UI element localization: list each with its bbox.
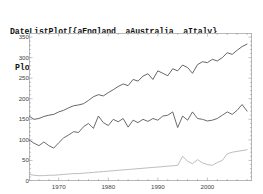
y-tick-label-100: 100 xyxy=(0,137,29,143)
x-tick-label-1970: 1970 xyxy=(44,184,74,190)
y-tick-label-250: 250 xyxy=(0,75,29,81)
series-line-aEngland xyxy=(29,44,247,119)
y-tick-label-50: 50 xyxy=(0,157,29,163)
notebook-output-cell: DateListPlot[{aEngland, aAustralia, aIta… xyxy=(0,0,263,194)
y-tick-label-0: 0 xyxy=(0,178,29,184)
y-tick-label-150: 150 xyxy=(0,116,29,122)
x-tick-label-1990: 1990 xyxy=(143,184,173,190)
y-tick-label-300: 300 xyxy=(0,55,29,61)
x-tick-label-2000: 2000 xyxy=(192,184,222,190)
plot-graphics-output[interactable]: 050100150200250300350 1970198019902000 xyxy=(0,26,263,194)
x-tick-label-1980: 1980 xyxy=(93,184,123,190)
y-tick-label-200: 200 xyxy=(0,96,29,102)
axis-ticks-layer xyxy=(29,33,252,181)
data-lines-layer xyxy=(29,44,247,176)
y-tick-label-350: 350 xyxy=(0,34,29,40)
plot-canvas xyxy=(29,33,252,181)
series-line-aItaly xyxy=(29,150,247,176)
